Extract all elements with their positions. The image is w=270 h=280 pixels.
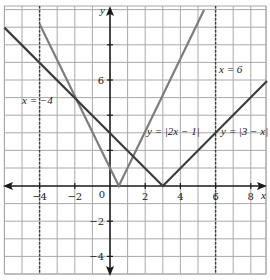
x-axis-label: x [260, 189, 266, 201]
absolute-value-graph: −4 −2 0 2 4 6 8 6 −2 −4 y x x = −4 x = 6… [0, 0, 270, 280]
x-tick-label-neg2: −2 [67, 191, 82, 202]
x-tick-label-6: 6 [212, 191, 218, 202]
origin-label: 0 [99, 189, 105, 200]
curve-abs-3-minus-x [4, 28, 267, 186]
y-tick-label-neg4: −4 [89, 251, 104, 262]
curve-label-abs-2x-minus-1: y = |2x − 1| [146, 125, 200, 137]
x-tick-label-2: 2 [142, 191, 148, 202]
y-tick-label-neg2: −2 [89, 216, 104, 227]
vertical-line-label-6: x = 6 [218, 63, 243, 75]
grid [4, 6, 266, 274]
x-tick-label-neg4: −4 [32, 191, 47, 202]
y-axis-label: y [99, 4, 105, 16]
plot-border [4, 6, 266, 274]
x-tick-label-4: 4 [177, 191, 183, 202]
vertical-line-label-neg4: x = −4 [21, 94, 53, 106]
curve-label-abs-3-minus-x: y = |3 − x| [220, 125, 268, 137]
x-tick-label-8: 8 [248, 191, 254, 202]
y-tick-label-6: 6 [98, 75, 104, 86]
